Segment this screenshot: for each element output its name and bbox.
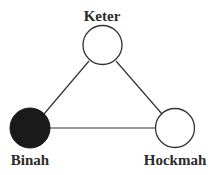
node-binah [10, 108, 50, 148]
edge-keter-binah [44, 61, 89, 114]
label-keter: Keter [84, 8, 121, 24]
edge-keter-hockmah [116, 61, 162, 114]
label-binah: Binah [11, 152, 50, 168]
label-hockmah: Hockmah [144, 152, 207, 168]
node-keter [83, 26, 122, 65]
node-hockmah [156, 109, 195, 148]
sefirot-triangle-diagram: Keter Binah Hockmah [0, 0, 219, 175]
